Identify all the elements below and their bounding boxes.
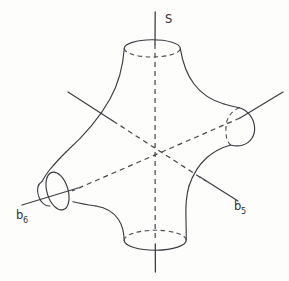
axis-b6-solid-upper-right	[240, 92, 283, 118]
top-opening-hidden-arc	[124, 48, 180, 57]
surface-diagram: S b 5 b 6	[0, 0, 289, 281]
label-axis-b6-subscript: 6	[23, 216, 28, 225]
axis-b5-solid-upper-left	[68, 92, 113, 121]
axis-b5-dashed-middle	[113, 121, 206, 181]
surface-outline-group	[42, 48, 240, 240]
label-axis-s: S	[165, 12, 173, 26]
figure-canvas: S b 5 b 6	[0, 0, 289, 281]
contour-right-tube-bottom	[189, 145, 231, 186]
left-opening-inner-lip	[38, 182, 50, 207]
contour-upper-right	[180, 48, 224, 104]
contour-left-tube-bottom	[73, 202, 96, 206]
label-axis-b5-subscript: 5	[241, 207, 246, 216]
openings-group	[38, 40, 255, 250]
right-opening-hidden-arc	[226, 108, 240, 145]
contour-upper-left	[66, 49, 124, 153]
axis-b6-dashed-middle	[72, 118, 240, 191]
contour-lower-left	[96, 206, 124, 241]
labels-group: S b 5 b 6	[16, 12, 246, 225]
left-opening-rim	[42, 169, 73, 212]
top-opening-visible-arc	[124, 40, 180, 49]
contour-right-tube-top	[224, 104, 240, 108]
contour-lower-right	[186, 186, 189, 240]
axis-b5-solid-lower-right	[200, 177, 238, 201]
axis-group	[22, 12, 283, 272]
right-opening-visible-arc	[231, 108, 255, 146]
